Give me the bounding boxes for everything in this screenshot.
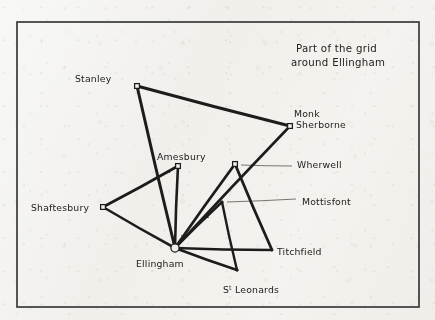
leader-line bbox=[227, 199, 296, 202]
node-marker-amesbury bbox=[176, 164, 181, 169]
node-label-monk_sherborne: Sherborne bbox=[296, 119, 346, 130]
node-label-titchfield: Titchfield bbox=[276, 246, 322, 257]
figure-title: Part of the grid around Ellingham bbox=[291, 43, 385, 68]
grid-edge bbox=[103, 207, 175, 248]
node-label-ellingham: Ellingham bbox=[136, 258, 184, 269]
node-marker-wherwell bbox=[233, 162, 238, 167]
grid-edge bbox=[175, 166, 178, 248]
grid-edge bbox=[175, 248, 272, 250]
grid-edge bbox=[137, 86, 175, 248]
node-label-shaftesbury: Shaftesbury bbox=[31, 202, 89, 213]
sketch-canvas: StanleyMonkSherborneAmesburyWherwellMott… bbox=[0, 0, 435, 320]
title-line-2: around Ellingham bbox=[291, 57, 385, 68]
network-sketch-figure: StanleyMonkSherborneAmesburyWherwellMott… bbox=[0, 0, 435, 320]
node-label-wherwell: Wherwell bbox=[297, 159, 342, 170]
node-labels: StanleyMonkSherborneAmesburyWherwellMott… bbox=[31, 73, 351, 295]
node-marker-shaftesbury bbox=[101, 205, 106, 210]
leader-line bbox=[241, 165, 292, 166]
grid-edge bbox=[235, 164, 272, 250]
grid-edge bbox=[137, 86, 290, 126]
grid-edge bbox=[222, 202, 237, 270]
node-marker-stanley bbox=[135, 84, 140, 89]
node-label-mottisfont: Mottisfont bbox=[302, 196, 351, 207]
grid-edges bbox=[103, 86, 290, 270]
grid-edge bbox=[175, 164, 235, 248]
node-marker-mottisfont bbox=[220, 200, 223, 203]
node-marker-ellingham bbox=[171, 244, 179, 252]
title-line-1: Part of the grid bbox=[296, 43, 377, 54]
node-marker-st_leonards bbox=[235, 268, 238, 271]
grid-edge bbox=[103, 166, 178, 207]
grid-edge bbox=[175, 248, 237, 270]
node-label-monk_sherborne: Monk bbox=[294, 108, 320, 119]
node-label-stanley: Stanley bbox=[75, 73, 112, 84]
grid-edge bbox=[175, 202, 222, 248]
node-label-st_leonards: St Leonards bbox=[223, 284, 279, 295]
node-label-amesbury: Amesbury bbox=[157, 151, 206, 162]
grid-nodes bbox=[101, 84, 293, 272]
node-marker-monk_sherborne bbox=[288, 124, 293, 129]
